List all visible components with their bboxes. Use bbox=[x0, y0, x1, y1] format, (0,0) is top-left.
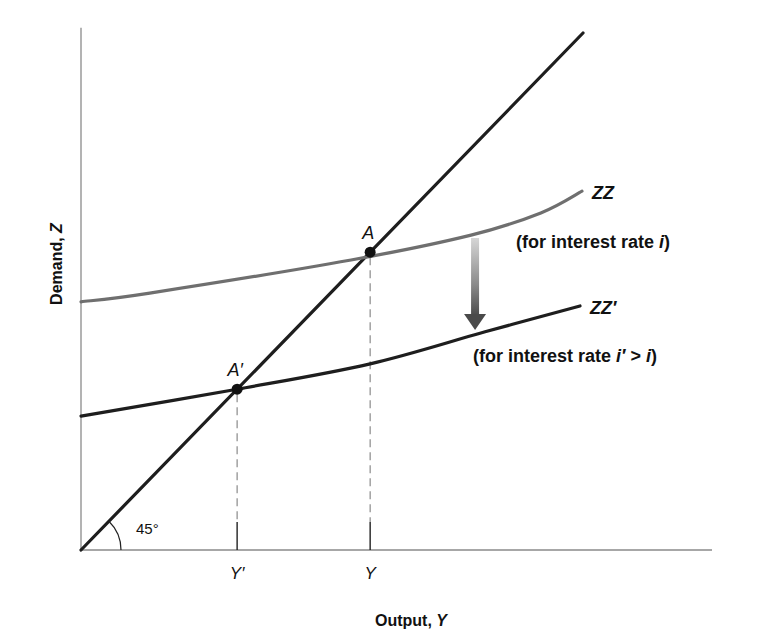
zz-prime-interest-text: (for interest rate bbox=[473, 346, 616, 366]
point-label-A: A bbox=[361, 223, 374, 243]
zz-prime-interest-label: (for interest rate i′ > i) bbox=[473, 346, 657, 366]
chart: YY′ 45° AA′ ZZ (for interest rate i) ZZ′… bbox=[0, 0, 758, 637]
y-axis-title: Demand, Z bbox=[48, 222, 65, 305]
x-axis-title-var: Y bbox=[436, 612, 448, 629]
arrow-head bbox=[464, 314, 486, 330]
zz-interest-text: (for interest rate bbox=[516, 232, 659, 252]
zz-prime-curve-label: ZZ′ bbox=[589, 298, 617, 318]
angle-label: 45° bbox=[136, 520, 159, 537]
point-A-prime bbox=[232, 384, 243, 395]
zz-curve-label: ZZ bbox=[591, 183, 615, 203]
point-label-A-prime: A′ bbox=[226, 360, 243, 380]
zz-prime-interest-end: ) bbox=[651, 346, 657, 366]
point-A bbox=[365, 247, 376, 258]
tick-label-A-prime: Y′ bbox=[230, 564, 245, 583]
x-axis-title-text: Output, bbox=[375, 612, 436, 629]
zz-interest-label: (for interest rate i) bbox=[516, 232, 670, 252]
zz-prime-interest-mid: > bbox=[625, 346, 646, 366]
x-axis-title: Output, Y bbox=[375, 612, 448, 629]
arrow-shaft bbox=[471, 238, 479, 316]
angle-arc bbox=[109, 521, 121, 550]
shift-arrow bbox=[464, 238, 486, 330]
tick-label-A: Y bbox=[364, 564, 377, 583]
y-axis-title-var: Z bbox=[48, 222, 65, 234]
zz-interest-end: ) bbox=[664, 232, 670, 252]
y-axis-title-text: Demand, bbox=[48, 233, 65, 305]
curve-zz bbox=[81, 191, 582, 302]
